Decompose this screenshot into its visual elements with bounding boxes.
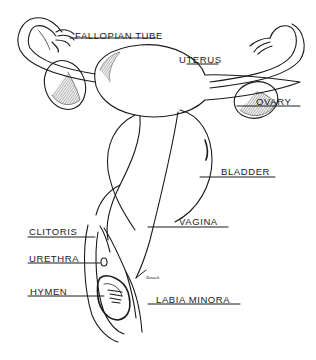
label-urethra: URETHRA (29, 254, 79, 264)
label-labia-minora: LABIA MINORA (156, 295, 230, 305)
urethra-opening (101, 258, 107, 266)
right-fallopian-tube (210, 24, 304, 88)
label-vagina: VAGINA (179, 217, 218, 227)
anatomy-diagram: FALLOPIAN TUBE UTERUS OVARY BLADDER VAGI… (0, 0, 316, 360)
label-fallopian-tube: FALLOPIAN TUBE (75, 31, 163, 41)
anatomy-drawing (0, 0, 316, 360)
labia-majora (85, 225, 118, 342)
label-clitoris: CLITORIS (29, 227, 77, 237)
bladder (107, 115, 135, 230)
label-bladder: BLADDER (221, 167, 270, 177)
label-ovary: OVARY (256, 97, 291, 107)
vaginal-opening (97, 276, 129, 320)
label-hymen: HYMEN (30, 287, 67, 297)
artist-signature: Renuck (146, 275, 159, 280)
label-uterus: UTERUS (179, 55, 222, 65)
cervix (107, 116, 140, 240)
left-fallopian-tube (18, 18, 95, 82)
